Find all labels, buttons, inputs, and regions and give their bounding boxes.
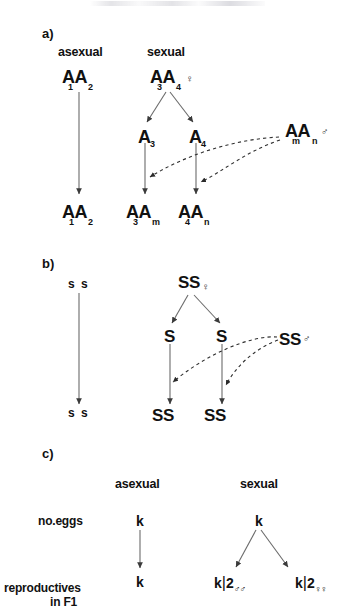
allele-A: AA bbox=[62, 67, 87, 87]
male-symbols-icon: ♂♂ bbox=[234, 584, 246, 594]
panel-a-offspring-left: AA bbox=[126, 203, 151, 221]
panel-a-gamete-left-sub: 3 bbox=[150, 140, 155, 149]
panel-b-father: SS bbox=[279, 331, 301, 348]
panel-a-asexual-parent: AA bbox=[62, 68, 87, 89]
arrow-c-sexual-right bbox=[261, 530, 288, 567]
panel-a-heading-sexual: sexual bbox=[147, 46, 185, 59]
panel-b-mother: SS bbox=[178, 274, 200, 291]
panel-c-row-label-reproductives: reproductives bbox=[4, 582, 81, 594]
panel-a-gamete-left: A bbox=[138, 128, 151, 146]
panel-b-asexual-parent: s s bbox=[68, 278, 89, 290]
panel-c-asexual-reproductives: k bbox=[136, 575, 144, 589]
panel-a-offspring-right: AA bbox=[178, 203, 203, 221]
panel-c-sexual-reproductives-females: k|2♀♀ bbox=[295, 575, 326, 594]
panel-a-heading-asexual: asexual bbox=[58, 46, 102, 59]
denominator-2: 2 bbox=[307, 575, 315, 591]
denominator-2: 2 bbox=[226, 575, 234, 591]
arrow-a-meiosis-left bbox=[147, 92, 166, 122]
panel-c-asexual-eggs: k bbox=[136, 514, 144, 528]
panel-b-offspring-right: SS bbox=[204, 407, 226, 424]
dashed-a-fertilisation-left bbox=[150, 137, 279, 177]
panel-a-offspring-left-sub2: m bbox=[152, 218, 160, 227]
panel-a-father-sub2: n bbox=[312, 137, 318, 146]
panel-c-sexual-eggs: k bbox=[255, 514, 263, 528]
panel-a-father-sub1: m bbox=[292, 137, 300, 146]
panel-a-asexual-parent-sub2: 2 bbox=[88, 83, 93, 92]
k-numerator: k bbox=[214, 575, 222, 591]
arrow-b-meiosis-left bbox=[172, 295, 188, 323]
panel-c-row-label-eggs: no.eggs bbox=[38, 515, 83, 527]
female-symbols-icon: ♀♀ bbox=[315, 584, 327, 594]
panel-label-c: c) bbox=[42, 447, 54, 460]
panel-label-a: a) bbox=[42, 27, 54, 40]
panel-b-gamete-left: S bbox=[164, 328, 175, 345]
panel-a-gamete-right-sub: 4 bbox=[201, 140, 206, 149]
panel-a-father-male-symbol: ♂ bbox=[321, 127, 329, 137]
dashed-b-fertilisation-right bbox=[226, 340, 278, 385]
panel-a-asexual-offspring-sub1: 1 bbox=[69, 218, 74, 227]
panel-a-mother-sub1: 3 bbox=[157, 83, 162, 92]
panel-c-row-label-reproductives-f1: in F1 bbox=[50, 596, 77, 608]
figure-panel-group: a) asexual sexual AA 1 2 AA 3 4 ♀ A 3 A … bbox=[0, 0, 339, 609]
panel-b-offspring-left: SS bbox=[152, 407, 174, 424]
panel-a-mother-female-symbol: ♀ bbox=[186, 74, 194, 84]
panel-a-asexual-offspring: AA bbox=[62, 203, 87, 221]
panel-a-mother: AA bbox=[150, 68, 175, 86]
panel-a-offspring-left-sub1: 3 bbox=[133, 218, 138, 227]
panel-a-mother-sub2: 4 bbox=[176, 83, 181, 92]
panel-b-father-male-symbol: ♂ bbox=[303, 334, 311, 344]
panel-c-heading-asexual: asexual bbox=[115, 478, 159, 491]
cropped-caption-smudge bbox=[90, 1, 265, 6]
dashed-a-fertilisation-right bbox=[201, 140, 280, 182]
arrow-c-sexual-left bbox=[236, 530, 256, 567]
panel-a-asexual-offspring-sub2: 2 bbox=[88, 218, 93, 227]
panel-b-mother-female-symbol: ♀ bbox=[202, 282, 210, 292]
panel-label-b: b) bbox=[42, 257, 54, 270]
k-numerator: k bbox=[295, 575, 303, 591]
arrow-b-meiosis-right bbox=[194, 295, 220, 323]
panel-a-asexual-parent-sub1: 1 bbox=[68, 83, 73, 92]
panel-b-asexual-offspring: s s bbox=[68, 407, 89, 419]
panel-a-offspring-right-sub2: n bbox=[204, 218, 210, 227]
panel-a-gamete-right: A bbox=[189, 128, 202, 146]
panel-c-sexual-reproductives-males: k|2♂♂ bbox=[214, 575, 245, 594]
panel-b-gamete-right: S bbox=[216, 328, 227, 345]
arrow-a-meiosis-right bbox=[170, 92, 193, 122]
panel-c-heading-sexual: sexual bbox=[240, 478, 278, 491]
panel-a-offspring-right-sub1: 4 bbox=[185, 218, 190, 227]
